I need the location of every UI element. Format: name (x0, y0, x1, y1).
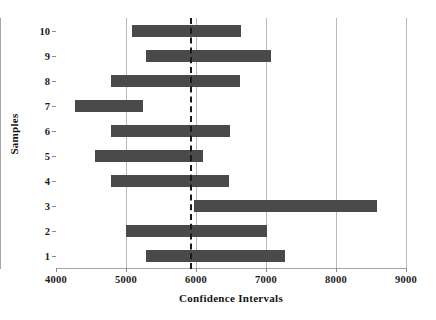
x-tick-label-6000: 6000 (185, 274, 207, 285)
interval-bar-sample-7 (75, 100, 143, 112)
interval-bar-sample-3 (194, 200, 377, 212)
x-tick-label-8000: 8000 (325, 274, 347, 285)
y-axis-title: Samples (8, 84, 20, 184)
y-tick-9 (52, 56, 56, 57)
interval-bar-sample-8 (111, 75, 240, 87)
y-tick-label-7: 7 (45, 101, 50, 112)
gridline-9000 (406, 18, 407, 268)
y-tick-label-6: 6 (45, 126, 50, 137)
y-tick-label-2: 2 (45, 226, 50, 237)
y-tick-label-9: 9 (45, 51, 50, 62)
y-tick-6 (52, 131, 56, 132)
y-tick-5 (52, 156, 56, 157)
y-tick-label-4: 4 (45, 176, 50, 187)
interval-bar-sample-6 (111, 125, 230, 137)
interval-bar-sample-1 (146, 250, 285, 262)
x-tick-label-9000: 9000 (395, 274, 417, 285)
interval-bar-sample-9 (146, 50, 271, 62)
x-tick-9000 (406, 268, 407, 272)
x-tick-8000 (336, 268, 337, 272)
interval-bar-sample-10 (132, 25, 241, 37)
confidence-interval-chart: 400050006000700080009000 12345678910 Con… (0, 0, 436, 320)
y-tick-10 (52, 31, 56, 32)
x-tick-5000 (126, 268, 127, 272)
y-tick-8 (52, 81, 56, 82)
y-tick-7 (52, 106, 56, 107)
y-tick-label-1: 1 (45, 251, 50, 262)
x-tick-7000 (266, 268, 267, 272)
interval-bar-sample-4 (111, 175, 229, 187)
y-tick-label-8: 8 (45, 76, 50, 87)
x-axis-title: Confidence Intervals (56, 292, 406, 304)
reference-line-dashed (190, 18, 192, 269)
x-tick-label-7000: 7000 (255, 274, 277, 285)
y-tick-1 (52, 256, 56, 257)
x-tick-label-5000: 5000 (115, 274, 137, 285)
interval-bar-sample-5 (95, 150, 203, 162)
x-axis-line (56, 268, 407, 269)
y-tick-2 (52, 231, 56, 232)
interval-bar-sample-2 (126, 225, 267, 237)
y-tick-3 (52, 206, 56, 207)
gridline-8000 (336, 18, 337, 268)
y-axis-tick-labels: 12345678910 (26, 0, 50, 320)
x-tick-4000 (56, 268, 57, 272)
y-tick-4 (52, 181, 56, 182)
y-tick-label-5: 5 (45, 151, 50, 162)
y-tick-label-3: 3 (45, 201, 50, 212)
y-tick-label-10: 10 (40, 26, 51, 37)
y-axis-line (0, 18, 1, 269)
x-tick-6000 (196, 268, 197, 272)
